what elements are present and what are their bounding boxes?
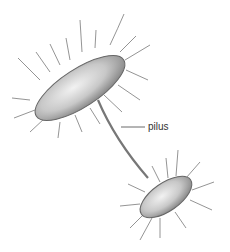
lower-bacterium [133, 168, 198, 225]
upper-bacterium [26, 44, 134, 133]
pilus-label: pilus [148, 121, 169, 132]
pilus [98, 100, 148, 178]
bacteria-illustration [0, 0, 230, 252]
